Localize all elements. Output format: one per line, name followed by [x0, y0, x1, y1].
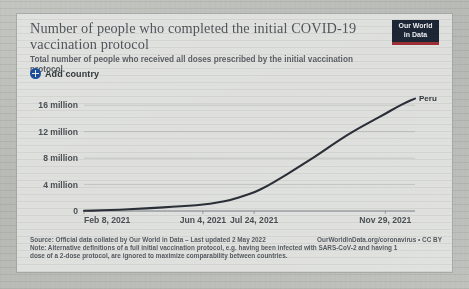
y-axis-tick-label: 0: [73, 206, 78, 216]
series-end-labels: Peru: [419, 94, 437, 103]
x-axis-tick-label: Nov 29, 2021: [359, 215, 411, 225]
y-axis-tick-labels: 04 million8 million12 million16 million: [38, 100, 78, 216]
series-label-peru: Peru: [419, 94, 437, 103]
y-axis-tick-label: 4 million: [43, 180, 78, 190]
circle-plus-icon: [30, 68, 41, 79]
owid-chart-card: Number of people who completed the initi…: [17, 14, 452, 272]
chart-plot-area[interactable]: 04 million8 million12 million16 million …: [30, 88, 439, 233]
add-country-button[interactable]: Add country: [30, 68, 99, 79]
series-line-peru[interactable]: [84, 99, 415, 211]
data-series-group[interactable]: [84, 99, 415, 211]
chart-header: Number of people who completed the initi…: [30, 21, 439, 75]
our-world-in-data-logo[interactable]: Our World in Data: [392, 20, 439, 45]
y-axis-tick-label: 16 million: [38, 100, 78, 110]
note-line-2: dose of a 2-dose protocol, are ignored t…: [30, 252, 442, 260]
x-axis-tick-labels: Feb 8, 2021Jun 4, 2021Jul 24, 2021Nov 29…: [84, 215, 412, 225]
y-axis-tick-label: 12 million: [38, 127, 78, 137]
x-axis-tick-label: Feb 8, 2021: [84, 215, 131, 225]
add-country-label: Add country: [45, 69, 99, 79]
note-line-1: Note: Alternative definitions of a full …: [30, 244, 442, 252]
page-title: Number of people who completed the initi…: [30, 21, 360, 52]
y-axis-tick-label: 8 million: [43, 153, 78, 163]
source-text: Source: Official data collated by Our Wo…: [30, 236, 266, 244]
logo-line-2: in Data: [392, 31, 439, 40]
x-axis-tick-label: Jul 24, 2021: [230, 215, 278, 225]
credit-link[interactable]: OurWorldInData.org/coronavirus • CC BY: [317, 236, 442, 244]
line-chart-svg: 04 million8 million12 million16 million …: [30, 88, 439, 233]
chart-footer: Source: Official data collated by Our Wo…: [30, 236, 442, 260]
gridlines: [84, 105, 415, 211]
logo-line-1: Our World: [392, 22, 439, 31]
x-axis-tick-label: Jun 4, 2021: [180, 215, 227, 225]
